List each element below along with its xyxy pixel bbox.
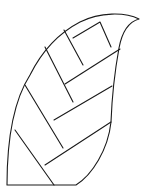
leaf-vein	[15, 130, 54, 185]
leaf-vein	[25, 85, 63, 148]
leaf-vein	[45, 47, 73, 102]
leaf-vein	[64, 30, 83, 65]
leaf-drawing	[0, 0, 150, 195]
leaf-vein	[54, 86, 112, 120]
leaf-vein	[65, 49, 120, 84]
leaf-vein	[45, 122, 111, 165]
leaf-outline	[7, 14, 139, 185]
leaf-vein-hook	[73, 22, 111, 47]
